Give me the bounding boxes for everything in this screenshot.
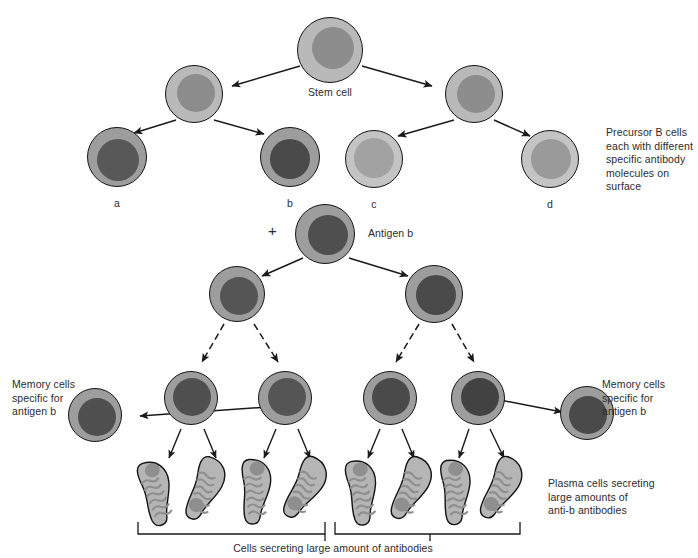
precursor-b-cells-label: Precursor B cells each with different sp… [606, 126, 698, 194]
connector-arrows-layer [0, 0, 698, 558]
cell-nucleus [173, 378, 211, 416]
memory-cells-right-label: Memory cells specific for antigen b [602, 378, 697, 419]
activated-cell-2 [405, 265, 463, 323]
arrow-stem-to-left [232, 66, 300, 86]
precursor-cell-a [87, 127, 147, 187]
arrow-div-2 [254, 324, 278, 362]
arrow-to-d [494, 120, 530, 136]
plasma-cell-1 [131, 456, 184, 527]
plasma-cell-5 [339, 456, 387, 527]
plasma-cell-8 [478, 453, 526, 524]
dividing-cell-1 [164, 371, 218, 425]
precursor-label-c: c [354, 198, 394, 212]
arrow-plasma-3 [264, 429, 276, 458]
cell-nucleus [177, 74, 215, 112]
dividing-cell-4 [451, 371, 505, 425]
antigen-bound-b-cell [295, 204, 355, 264]
bracket-right [335, 522, 520, 534]
arrow-to-memory-right [500, 400, 562, 412]
cell-nucleus [416, 275, 456, 315]
arrow-div-1 [202, 324, 224, 362]
precursor-cell-c [345, 130, 403, 188]
stem-cell-label: Stem cell [280, 86, 380, 100]
plasma-cell-7 [435, 457, 479, 527]
dividing-cell-2 [258, 371, 312, 425]
arrow-plasma-7 [459, 429, 469, 458]
arrow-stem-to-right [362, 66, 432, 86]
bracket-left [138, 522, 325, 534]
precursor-cell-b [260, 127, 320, 187]
plasma-cell-6 [389, 454, 435, 524]
cell-nucleus [220, 277, 258, 315]
dividing-cell-3 [363, 371, 417, 425]
stem-cell [297, 17, 363, 83]
precursor-label-b: b [270, 197, 310, 211]
cell-nucleus [531, 139, 571, 179]
arrow-div-3 [396, 324, 419, 362]
intermediate-cell-1 [165, 65, 223, 123]
arrow-plasma-4 [298, 429, 310, 458]
plasma-cells-layer [131, 453, 526, 528]
antigen-b-label: Antigen b [368, 227, 413, 241]
arrow-to-c [398, 120, 454, 136]
activated-cell-1 [209, 266, 265, 322]
memory-cells-left-label: Memory cells specific for antigen b [12, 378, 107, 419]
cell-nucleus [268, 378, 306, 416]
plasma-cell-2 [184, 454, 228, 524]
cell-nucleus [461, 378, 499, 416]
cell-nucleus [312, 27, 354, 69]
intermediate-cell-2 [445, 65, 503, 123]
arrow-plasma-5 [368, 429, 380, 458]
cell-nucleus [97, 139, 139, 181]
arrow-to-a [134, 120, 176, 133]
cell-nucleus [308, 215, 348, 255]
arrow-plasma-2 [204, 429, 216, 458]
arrow-div-4 [452, 324, 474, 362]
plasma-cells-label: Plasma cells secreting large amounts of … [548, 477, 696, 518]
precursor-label-d: d [530, 198, 570, 212]
clonal-selection-diagram: Stem cell Precursor B cells each with di… [0, 0, 698, 558]
plasma-cell-3 [237, 457, 277, 525]
arrow-plasma-8 [490, 429, 504, 458]
cell-nucleus [270, 139, 310, 179]
plasma-cell-4 [282, 453, 332, 524]
arrow-to-b [214, 120, 264, 134]
precursor-cell-d [521, 130, 579, 188]
cell-nucleus [457, 75, 495, 113]
cell-nucleus [372, 378, 410, 416]
arrow-plasma-6 [402, 429, 414, 458]
arrow-antigen-to-left [262, 258, 303, 276]
bracket-caption-label: Cells secreting large amount of antibodi… [148, 542, 518, 556]
arrow-plasma-1 [169, 429, 181, 458]
plus-sign-label: + [268, 224, 277, 238]
arrow-antigen-to-right [349, 258, 408, 276]
precursor-label-a: a [97, 197, 137, 211]
cell-nucleus [354, 138, 394, 178]
